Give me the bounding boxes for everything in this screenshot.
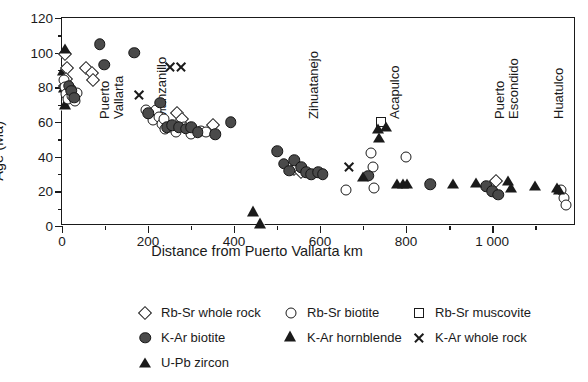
circle-open-marker-icon: [195, 125, 206, 136]
circle-open-marker-icon: [340, 184, 351, 195]
y-tick-label: 0: [45, 219, 53, 234]
y-tick-minor: [58, 35, 62, 36]
triangle-open-marker-icon: [255, 219, 267, 229]
triangle-filled-marker-icon: [139, 357, 151, 367]
legend-swatch: [410, 305, 428, 321]
region-label: PuertoEscondido: [493, 58, 520, 119]
x-tick-major: [320, 226, 321, 233]
circle-filled-marker-icon: [271, 146, 283, 158]
region-label: Acapulco: [388, 65, 402, 118]
circle-open-marker-icon: [179, 122, 190, 133]
x-tick-major: [492, 226, 493, 233]
circle-filled-marker-icon: [68, 92, 80, 104]
legend-item[interactable]: Rb-Sr biotite: [282, 305, 410, 321]
circle-open-marker-icon: [160, 123, 171, 134]
circle-filled-marker-icon: [301, 167, 313, 179]
legend-row: U-Pb zircon: [136, 350, 536, 375]
circle-filled-marker-icon: [313, 167, 325, 179]
legend-label: K-Ar whole rock: [435, 330, 527, 345]
diamond-open-marker-icon: [170, 106, 184, 120]
circle-filled-marker-icon: [192, 127, 204, 139]
y-tick-major: [55, 18, 62, 19]
region-label-line: Puerto: [98, 75, 112, 118]
x-tick-major: [148, 226, 149, 233]
x-tick-minor: [105, 226, 106, 230]
legend-item[interactable]: Rb-Sr whole rock: [136, 305, 282, 321]
circle-open-marker-icon: [58, 75, 69, 86]
legend-swatch: [282, 330, 300, 346]
circle-open-marker-icon: [401, 151, 412, 162]
circle-filled-marker-icon: [486, 186, 498, 198]
circle-filled-marker-icon: [278, 158, 290, 170]
legend-label: Rb-Sr whole rock: [161, 305, 261, 320]
circle-filled-marker-icon: [173, 121, 185, 133]
triangle-filled-marker-icon: [373, 132, 385, 142]
diamond-open-marker-icon: [287, 162, 301, 176]
triangle-filled-marker-icon: [529, 181, 541, 191]
circle-open-marker-icon: [67, 91, 78, 102]
legend-label: K-Ar biotite: [161, 330, 225, 345]
triangle-filled-marker-icon: [502, 175, 514, 185]
circle-open-marker-icon: [141, 104, 152, 115]
circle-filled-marker-icon: [185, 121, 197, 133]
diamond-open-marker-icon: [58, 79, 72, 93]
region-label: Manzanillo: [155, 56, 169, 118]
circle-open-marker-icon: [61, 89, 72, 100]
age-vs-distance-scatter-figure: 020406080100120 02004006008001 000 Puert…: [0, 0, 588, 382]
legend-item[interactable]: U-Pb zircon: [136, 355, 282, 371]
circle-open-marker-icon: [367, 162, 378, 173]
legend-item[interactable]: K-Ar biotite: [136, 330, 282, 346]
x-tick-minor: [449, 226, 450, 230]
circle-filled-marker-icon: [139, 332, 151, 344]
circle-open-marker-icon: [369, 182, 380, 193]
x-tick-label: 1 000: [475, 234, 509, 249]
square-open-marker-icon: [376, 117, 386, 127]
triangle-filled-marker-icon: [553, 184, 565, 194]
circle-open-marker-icon: [65, 84, 76, 95]
legend-item[interactable]: Rb-Sr muscovite: [410, 305, 531, 321]
region-label-line: Huatulco: [552, 67, 566, 118]
cross-marker-icon: [133, 88, 145, 100]
circle-filled-marker-icon: [225, 116, 237, 128]
region-label: Huatulco: [552, 67, 566, 118]
legend-label: U-Pb zircon: [161, 355, 229, 370]
circle-filled-marker-icon: [209, 128, 221, 140]
circle-filled-marker-icon: [161, 121, 173, 133]
circle-filled-marker-icon: [66, 85, 78, 97]
x-tick-minor: [535, 226, 536, 230]
circle-open-marker-icon: [286, 307, 297, 318]
triangle-filled-marker-icon: [470, 177, 482, 187]
circle-filled-marker-icon: [492, 189, 504, 201]
circle-filled-marker-icon: [166, 120, 178, 132]
legend-item[interactable]: K-Ar whole rock: [410, 330, 527, 346]
triangle-open-marker-icon: [248, 207, 260, 217]
y-tick-label: 80: [38, 80, 53, 95]
triangle-open-marker-icon: [285, 332, 297, 342]
y-tick-label: 40: [38, 149, 53, 164]
circle-filled-marker-icon: [289, 154, 301, 166]
y-tick-major: [55, 53, 62, 54]
region-label: Zihuatanejo: [307, 51, 321, 119]
legend-label: Rb-Sr biotite: [307, 305, 379, 320]
diamond-open-marker-icon: [294, 165, 308, 179]
x-axis-title: Distance from Puerto Vallarta km: [151, 243, 363, 259]
circle-filled-marker-icon: [480, 180, 492, 192]
circle-open-marker-icon: [365, 148, 376, 159]
x-tick-minor: [363, 226, 364, 230]
legend-label: Rb-Sr muscovite: [435, 305, 531, 320]
triangle-filled-marker-icon: [447, 179, 459, 189]
circle-filled-marker-icon: [142, 108, 154, 120]
cross-marker-icon: [413, 332, 425, 344]
plot-area: 020406080100120 02004006008001 000 Puert…: [61, 17, 575, 225]
circle-filled-marker-icon: [295, 161, 307, 173]
region-label-line: Puerto: [493, 58, 507, 119]
y-tick-minor: [58, 209, 62, 210]
legend-item[interactable]: K-Ar hornblende: [282, 330, 410, 346]
circle-filled-marker-icon: [63, 80, 75, 92]
legend-row: K-Ar biotiteK-Ar hornblendeK-Ar whole ro…: [136, 325, 536, 350]
x-tick-label: 0: [58, 234, 66, 249]
triangle-filled-marker-icon: [397, 179, 409, 189]
y-tick-label: 60: [38, 115, 53, 130]
triangle-filled-marker-icon: [551, 182, 563, 192]
triangle-filled-marker-icon: [372, 123, 384, 133]
